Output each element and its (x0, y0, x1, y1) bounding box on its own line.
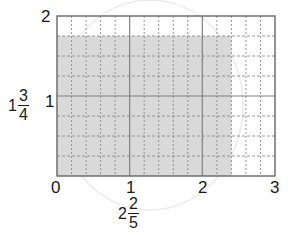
height-annotation-1-and-3-4: 1 3 4 (8, 88, 29, 123)
height-fraction-numerator: 3 (18, 88, 29, 104)
width-annotation-2-and-2-5: 2 2 5 (118, 196, 139, 231)
width-whole-number: 2 (118, 206, 128, 222)
width-fraction: 2 5 (128, 196, 139, 231)
x-axis-tick-label-3: 3 (270, 179, 279, 196)
area-model-figure: 2 1 0 1 2 3 1 3 4 2 2 5 (0, 0, 288, 235)
x-axis-tick-label-1: 1 (126, 179, 135, 196)
width-fraction-denominator: 5 (128, 215, 139, 231)
height-fraction-denominator: 4 (18, 107, 29, 123)
y-axis-tick-label-1: 1 (45, 93, 54, 110)
height-whole-number: 1 (8, 98, 18, 114)
grid-plot-svg (0, 0, 288, 235)
width-fraction-numerator: 2 (128, 196, 139, 212)
x-axis-tick-label-2: 2 (198, 179, 207, 196)
height-fraction: 3 4 (18, 88, 29, 123)
y-axis-tick-label-2: 2 (41, 8, 50, 25)
x-axis-tick-label-0: 0 (51, 179, 60, 196)
